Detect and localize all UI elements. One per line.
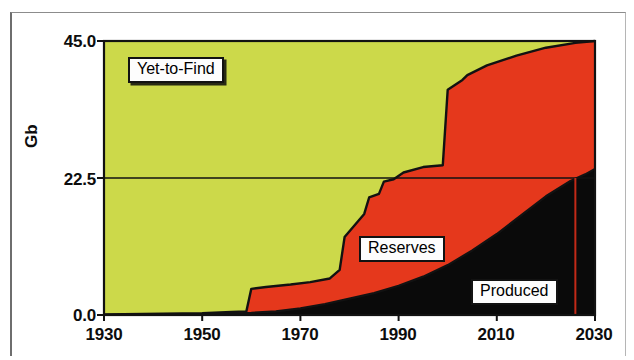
chart-figure: Gb 45.0 22.5 0.0 1930 1950 1970 1990 201… (0, 0, 634, 360)
annotation-yet-to-find: Yet-to-Find (128, 57, 224, 83)
annotation-reserves: Reserves (359, 236, 445, 262)
annotation-produced: Produced (471, 279, 558, 305)
area-chart-plot (0, 0, 634, 360)
